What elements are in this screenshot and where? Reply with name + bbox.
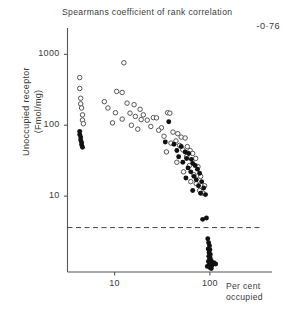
data-point-open <box>141 113 146 118</box>
data-point-open <box>102 99 107 104</box>
data-point-open <box>113 110 118 115</box>
data-point-open <box>77 86 82 91</box>
y-tick-label-100: 100 <box>26 119 60 129</box>
data-point-open <box>133 114 138 119</box>
data-point-filled <box>197 171 202 176</box>
data-point-open <box>80 113 85 118</box>
data-point-filled <box>213 262 218 267</box>
data-point-filled <box>199 179 204 184</box>
data-point-open <box>164 150 169 155</box>
x-tick-label-100: 100 <box>195 278 225 288</box>
data-point-filled <box>209 266 214 271</box>
data-point-open <box>120 117 125 122</box>
data-point-open <box>168 111 173 116</box>
data-point-open <box>106 106 111 111</box>
data-point-open <box>171 130 176 135</box>
data-point-open <box>154 116 159 121</box>
x-tick-label-10: 10 <box>100 278 130 288</box>
data-point-open <box>120 90 125 95</box>
data-point-filled <box>174 148 179 153</box>
data-point-open <box>175 160 180 165</box>
data-point-open <box>81 121 86 126</box>
data-point-filled <box>204 216 209 221</box>
data-point-filled <box>179 144 184 149</box>
data-point-open <box>183 136 188 141</box>
data-point-filled <box>183 176 188 181</box>
data-point-filled <box>203 192 208 197</box>
y-tick-label-10: 10 <box>26 190 60 200</box>
data-point-open <box>78 96 83 101</box>
data-point-open <box>189 179 194 184</box>
data-point-open <box>128 111 133 116</box>
data-point-filled <box>194 177 199 182</box>
data-point-open <box>193 156 198 161</box>
data-point-open <box>125 101 130 106</box>
data-point-filled <box>198 191 203 196</box>
data-point-open <box>122 61 127 66</box>
data-point-open <box>136 127 141 132</box>
data-point-filled <box>172 142 177 147</box>
data-point-open <box>181 170 186 175</box>
data-point-filled <box>186 151 191 156</box>
data-point-open <box>149 124 154 129</box>
data-point-open <box>162 134 167 139</box>
data-point-open <box>138 107 143 112</box>
data-point-filled <box>184 156 189 161</box>
data-point-open <box>77 75 82 80</box>
data-point-open <box>145 118 150 123</box>
data-point-filled <box>166 119 171 124</box>
data-point-filled <box>201 186 206 191</box>
data-points-group <box>77 61 218 271</box>
data-point-filled <box>163 140 168 145</box>
data-point-filled <box>80 145 85 150</box>
data-point-open <box>79 106 84 111</box>
data-point-filled <box>180 160 185 165</box>
scatter-plot-figure: Spearmans coefficient of rank correlatio… <box>0 0 285 325</box>
data-point-open <box>129 123 134 128</box>
data-point-open <box>132 102 137 107</box>
data-point-open <box>156 128 161 133</box>
y-tick-label-1000: 1000 <box>26 48 60 58</box>
data-point-open <box>139 117 144 122</box>
data-point-filled <box>196 183 201 188</box>
data-point-filled <box>176 154 181 159</box>
data-point-open <box>114 89 119 94</box>
data-point-open <box>110 121 115 126</box>
data-point-filled <box>190 188 195 193</box>
data-point-filled <box>188 169 193 174</box>
